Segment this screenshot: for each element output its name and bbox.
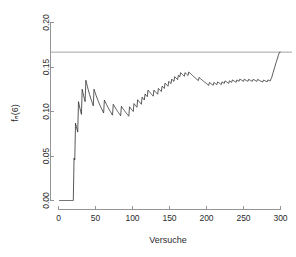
x-tick-label: 200: [199, 213, 213, 223]
relative-frequency-chart: 0.000.050.100.150.20 050100150200250300 …: [0, 0, 296, 257]
y-axis-ticks: 0.000.050.100.150.20: [41, 14, 54, 209]
y-tick-label: 0.05: [41, 147, 51, 164]
chart-page: 0.000.050.100.150.20 050100150200250300 …: [0, 0, 296, 257]
series-relative-frequency: [59, 52, 280, 200]
x-tick-label: 250: [236, 213, 250, 223]
x-tick-label: 0: [56, 213, 61, 223]
y-tick-label: 0.20: [41, 14, 51, 31]
x-tick-label: 150: [162, 213, 176, 223]
y-tick-label: 0.10: [41, 103, 51, 120]
x-tick-label: 100: [125, 213, 139, 223]
x-tick-label: 50: [91, 213, 101, 223]
x-axis-title: Versuche: [149, 235, 187, 245]
data-series-group: [59, 52, 280, 200]
x-tick-label: 300: [273, 213, 287, 223]
y-tick-label: 0.15: [41, 58, 51, 75]
x-axis-ticks: 050100150200250300: [56, 206, 288, 223]
y-tick-label: 0.00: [41, 192, 51, 209]
y-axis-title: fₙ(6): [10, 104, 20, 122]
